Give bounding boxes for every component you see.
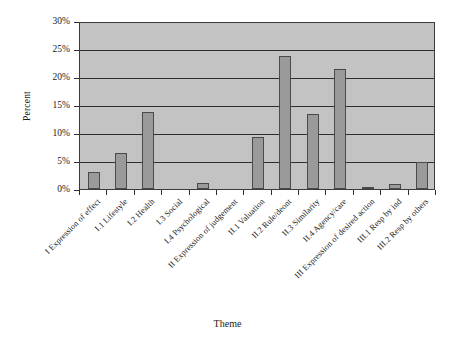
bar-chart: Percent 0%5%10%15%20%25%30% I Expression…: [0, 0, 455, 348]
x-axis-title: Theme: [0, 318, 455, 329]
x-tick-label-text: III.2 Resp by others: [376, 197, 431, 252]
x-axis-labels: I Expression of effectI.1 LifestyleI.2 H…: [0, 0, 455, 348]
x-axis-title-text: Theme: [214, 318, 242, 329]
